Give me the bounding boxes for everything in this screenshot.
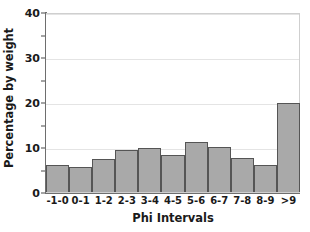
x-axis-title: Phi Intervals [46, 211, 300, 225]
bar [115, 150, 138, 192]
x-tick-label: >9 [281, 195, 296, 207]
bar [92, 159, 115, 192]
x-tick-label: 5-6 [187, 195, 205, 207]
y-axis-tick-labels: 010203040 [16, 8, 40, 193]
x-tick-label: 7-8 [233, 195, 251, 207]
chart-figure: Percentage by weight 010203040 -1-00-11-… [0, 0, 310, 232]
x-tick-label: 2-3 [118, 195, 136, 207]
bar [185, 142, 208, 192]
bar [231, 158, 254, 192]
plot-area [46, 13, 300, 193]
y-tick-label-10: 10 [25, 143, 40, 154]
x-tick-label: -1-0 [46, 195, 68, 207]
y-tick-label-30: 30 [25, 53, 40, 64]
y-tick-label-20: 20 [25, 98, 40, 109]
x-tick-label: 1-2 [95, 195, 113, 207]
bar [69, 167, 92, 192]
x-tick-label: 3-4 [141, 195, 159, 207]
bar [277, 103, 300, 192]
bar [208, 147, 231, 192]
x-tick-label: 6-7 [210, 195, 228, 207]
x-tick-label: 0-1 [72, 195, 90, 207]
y-axis-title-text: Percentage by weight [2, 27, 16, 167]
x-axis-tick-labels: -1-00-11-22-33-44-55-66-77-88-9>9 [46, 195, 300, 211]
bar-series [46, 14, 299, 192]
bar [254, 165, 277, 192]
bar [138, 148, 161, 192]
y-tick-label-40: 40 [25, 8, 40, 19]
x-tick-label: 8-9 [256, 195, 274, 207]
bar [161, 155, 184, 192]
y-tick-label-0: 0 [32, 188, 40, 199]
bar [46, 165, 69, 192]
x-tick-label: 4-5 [164, 195, 182, 207]
